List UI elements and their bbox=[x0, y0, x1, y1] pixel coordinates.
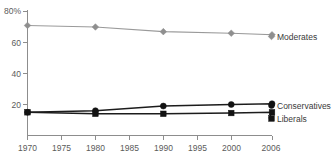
data-point-conservatives-1990 bbox=[160, 103, 166, 109]
x-tick-label-1995: 1995 bbox=[188, 143, 207, 153]
data-point-conservatives-2000 bbox=[228, 102, 234, 108]
y-tick-label-40: 40 bbox=[12, 69, 22, 79]
series-layer bbox=[24, 22, 275, 118]
line-chart: 80% 60 40 20 1970 1975 1980 1985 1990 19… bbox=[0, 0, 334, 161]
data-point-moderates-2000 bbox=[228, 30, 235, 37]
series-label-moderates: Moderates bbox=[277, 32, 317, 42]
legend-markers bbox=[268, 33, 275, 121]
data-point-moderates-1970 bbox=[24, 22, 31, 29]
series-line-moderates bbox=[28, 25, 273, 36]
x-tick-label-1975: 1975 bbox=[52, 143, 71, 153]
data-point-liberals-2000 bbox=[228, 110, 234, 116]
data-point-liberals-1990 bbox=[161, 111, 167, 117]
x-tick-label-1990: 1990 bbox=[154, 143, 173, 153]
series-label-liberals: Liberals bbox=[277, 114, 307, 124]
data-point-liberals-2006 bbox=[269, 109, 275, 115]
x-tick-label-1980: 1980 bbox=[86, 143, 105, 153]
x-tick-label-1985: 1985 bbox=[120, 143, 139, 153]
chart-plot-area: 80% 60 40 20 1970 1975 1980 1985 1990 19… bbox=[0, 0, 334, 161]
y-tick-label-20: 20 bbox=[12, 100, 22, 110]
data-point-moderates-1990 bbox=[160, 28, 167, 35]
y-tick-label-80: 80% bbox=[4, 6, 21, 16]
data-point-liberals-1980 bbox=[93, 111, 99, 117]
data-point-liberals-1970 bbox=[25, 109, 31, 115]
x-tick-label-1970: 1970 bbox=[18, 143, 37, 153]
legend-marker-conservatives bbox=[269, 103, 275, 109]
series-label-conservatives: Conservatives bbox=[277, 101, 331, 111]
series-line-conservatives bbox=[28, 104, 273, 113]
series-line-liberals bbox=[28, 112, 273, 118]
legend-marker-liberals bbox=[269, 116, 275, 122]
y-tick-label-60: 60 bbox=[12, 38, 22, 48]
x-tick-label-2000: 2000 bbox=[222, 143, 241, 153]
x-tick-label-2006: 2006 bbox=[262, 143, 281, 153]
data-point-moderates-1980 bbox=[92, 24, 99, 31]
